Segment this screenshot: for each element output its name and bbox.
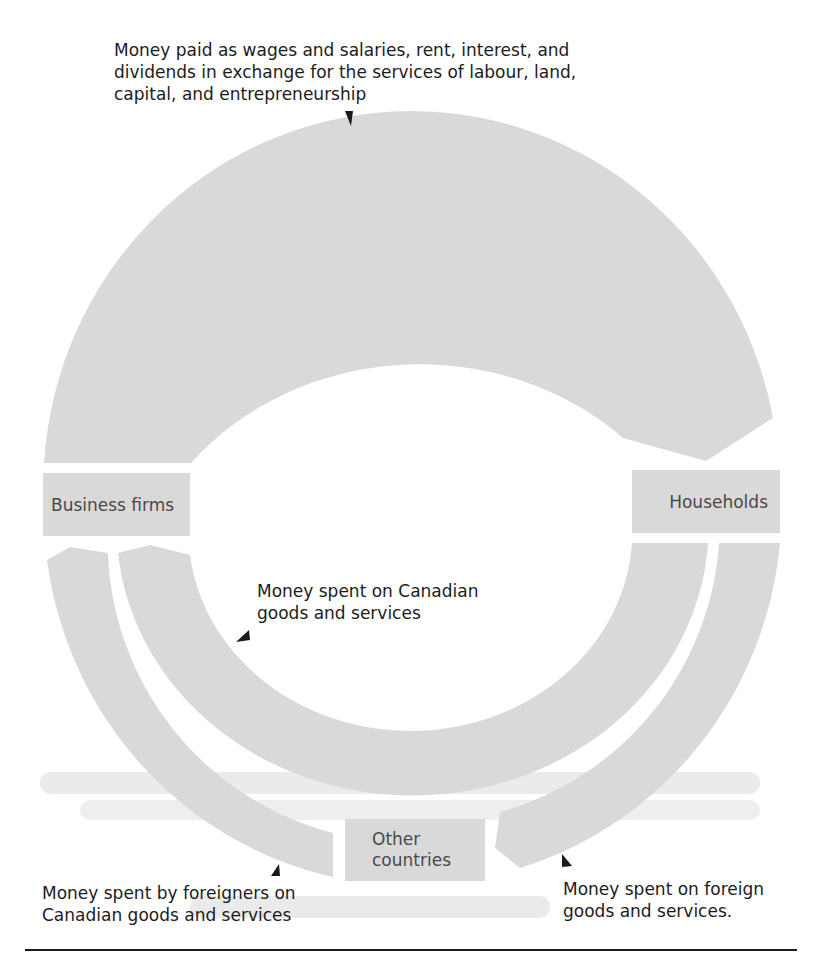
- caption-imports: Money spent on foreign goods and service…: [563, 878, 764, 922]
- node-business-firms: Business firms: [43, 473, 190, 536]
- flow-band-factor-payments: [44, 111, 773, 463]
- node-households: Households: [632, 470, 780, 533]
- node-label-line1: Other: [372, 829, 420, 850]
- bottom-rule: [25, 949, 797, 951]
- arrow-icon-exports: [271, 864, 280, 876]
- node-other-countries: Other countries: [345, 819, 485, 881]
- node-label: Households: [669, 492, 768, 512]
- caption-factor-payments: Money paid as wages and salaries, rent, …: [114, 39, 576, 105]
- caption-exports: Money spent by foreigners on Canadian go…: [42, 882, 296, 926]
- arrow-icon-imports: [562, 854, 572, 867]
- node-label-line2: countries: [372, 850, 451, 871]
- node-label: Business firms: [51, 495, 174, 515]
- arrow-icon-domestic-spending: [236, 630, 250, 642]
- caption-domestic-spending: Money spent on Canadian goods and servic…: [257, 580, 478, 624]
